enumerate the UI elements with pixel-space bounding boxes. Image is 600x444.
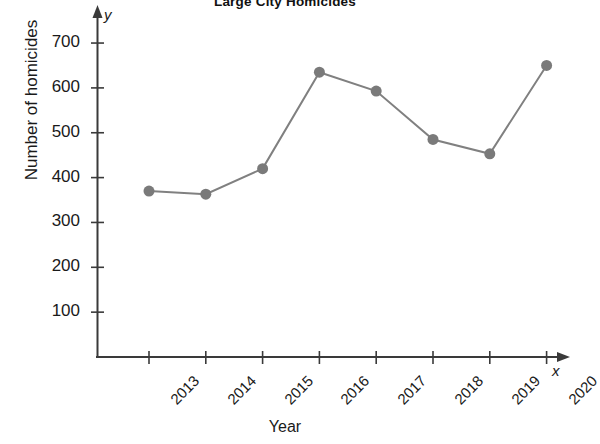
x-variable-label: x: [552, 362, 560, 379]
data-point: [257, 163, 268, 174]
data-point: [314, 67, 325, 78]
data-point: [541, 60, 552, 71]
y-axis: [93, 5, 103, 358]
y-tick-label: 400: [22, 167, 80, 187]
x-axis: [96, 352, 570, 362]
y-tick-label: 700: [22, 32, 80, 52]
data-point: [484, 148, 495, 159]
y-tick-label: 200: [22, 256, 80, 276]
y-variable-label: y: [104, 6, 112, 23]
data-point: [371, 86, 382, 97]
y-tick-label: 100: [22, 301, 80, 321]
data-point: [428, 134, 439, 145]
y-tick-label: 500: [22, 122, 80, 142]
data-point: [200, 189, 211, 200]
y-tick-label: 600: [22, 77, 80, 97]
data-point: [144, 186, 155, 197]
y-tick-label: 300: [22, 211, 80, 231]
series-line: [149, 65, 547, 194]
data-series: [144, 60, 553, 200]
